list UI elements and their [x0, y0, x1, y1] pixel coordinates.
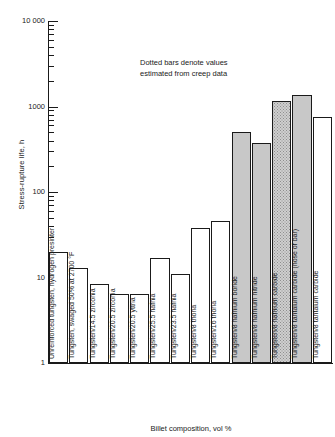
bar-label: Tungsten/8 hafnium nitride: [251, 276, 258, 359]
annotation-line-2: estimated from creep data: [140, 69, 325, 80]
bar[interactable]: Tungsten/23.5 hafnia: [171, 274, 190, 363]
bar[interactable]: Tungsten/25.5 hafnia: [150, 258, 169, 363]
y-axis-tick-labels: 10 0001000100101: [0, 0, 47, 437]
y-tick-label: 10: [37, 273, 45, 282]
bar-label: Tungsten/23.5 hafnia: [170, 293, 177, 359]
bar[interactable]: Tungsten/8 tantalum carbide (nose of bar…: [292, 95, 311, 363]
bar[interactable]: Tungsten/14.5 zirconia: [90, 284, 109, 363]
bar-label: Tungsten/8 hafnium boride: [231, 276, 238, 359]
bar[interactable]: Tungsten/8 thoria: [191, 228, 210, 363]
y-tick-label: 1: [41, 358, 45, 367]
bar-label: Tungsten/20.5 zirconia: [109, 288, 116, 359]
chart-figure: Stress-rupture life, h 10 0001000100101 …: [0, 0, 335, 437]
bar-label: Tungsten/8 tantalum carbide: [312, 271, 319, 359]
bar-label: Unreinforced tungsten, hydrogen presinte…: [48, 228, 55, 359]
bar-label: Tungsten, swaged 50% at 2700 °F: [68, 252, 75, 359]
bar-label: Tungsten/20.5 yttria: [129, 297, 136, 359]
bar-label: Tungsten/8 thoria: [190, 305, 197, 359]
chart-annotation: Dotted bars denote values estimated from…: [140, 58, 325, 80]
bar[interactable]: Tungsten/16 thoria: [211, 221, 230, 363]
y-tick-label: 100: [32, 187, 45, 196]
bar[interactable]: Tungsten/20.5 yttria: [130, 294, 149, 364]
y-tick-major: [49, 363, 58, 364]
bar[interactable]: Tungsten/8 hafnium nitride: [252, 143, 271, 363]
bar[interactable]: Tungsten, swaged 50% at 2700 °F: [69, 268, 88, 363]
bar-label: Tungsten/8 hafnium carbide: [271, 272, 278, 359]
x-axis-line: [48, 363, 333, 364]
annotation-line-1: Dotted bars denote values: [140, 58, 325, 69]
x-axis-label: Billet composition, vol %: [49, 424, 333, 433]
bar-label: Tungsten/8 tantalum carbide (nose of bar…: [291, 229, 298, 359]
bar[interactable]: Tungsten/20.5 zirconia: [110, 294, 129, 364]
y-tick-label: 10 000: [22, 16, 45, 25]
bar-label: Tungsten/25.5 hafnia: [149, 293, 156, 359]
bar-label: Tungsten/16 thoria: [210, 301, 217, 359]
bar-label: Tungsten/14.5 zirconia: [89, 288, 96, 359]
y-tick-label: 1000: [28, 102, 45, 111]
bar[interactable]: Tungsten/8 tantalum carbide: [313, 117, 332, 363]
bar[interactable]: Tungsten/8 hafnium carbide: [272, 101, 291, 363]
bar[interactable]: Unreinforced tungsten, hydrogen presinte…: [49, 252, 68, 363]
bar[interactable]: Tungsten/8 hafnium boride: [232, 132, 251, 363]
